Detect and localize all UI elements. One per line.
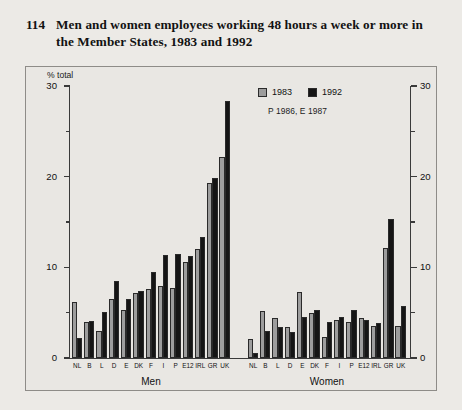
y-tick-label-right-10: 10 (420, 261, 442, 272)
bar-men-E-1992 (126, 299, 131, 358)
x-label-men-GR: GR (208, 362, 218, 369)
bar-group-women-E (297, 292, 307, 358)
bar-men-E12-1992 (188, 256, 193, 358)
bar-group-men-B (84, 321, 94, 358)
bars-layer (69, 86, 410, 358)
x-label-women-L: L (276, 362, 280, 369)
y-tick-right-20 (411, 176, 417, 177)
x-label-women-GR: GR (384, 362, 394, 369)
y-tick-label-left-30: 30 (35, 80, 57, 91)
bar-group-women-E12 (359, 318, 369, 358)
bar-women-I-1992 (339, 317, 344, 358)
bar-group-men-DK (133, 291, 143, 358)
bar-group-women-P (346, 310, 356, 358)
x-label-men-L: L (100, 362, 104, 369)
bar-women-UK-1992 (401, 306, 406, 358)
x-label-women-F: F (325, 362, 329, 369)
y-tick-left-10 (64, 267, 70, 268)
chart-page: 114 Men and women employees working 48 h… (0, 0, 462, 410)
y-minor-tick-right-25 (411, 131, 415, 132)
x-axis-labels: NLBLDEDKFIPE12IRLGRUKNLBLDEDKFIPE12IRLGR… (69, 362, 410, 376)
bar-women-E-1992 (302, 317, 307, 358)
bar-women-L-1992 (278, 327, 283, 358)
y-minor-tick-left-5 (66, 312, 70, 313)
y-tick-label-left-20: 20 (35, 171, 57, 182)
figure-number: 114 (26, 16, 45, 33)
bar-men-I-1992 (163, 255, 168, 358)
y-tick-label-left-10: 10 (35, 261, 57, 272)
x-label-men-UK: UK (220, 362, 229, 369)
bar-women-GR-1992 (388, 219, 393, 358)
y-tick-right-10 (411, 267, 417, 268)
x-axis-baseline (69, 358, 412, 359)
x-label-women-NL: NL (249, 362, 257, 369)
x-label-men-IRL: IRL (195, 362, 205, 369)
panel-label-men: Men (141, 376, 160, 387)
y-minor-tick-right-15 (411, 221, 415, 222)
bar-group-women-GR (383, 219, 393, 358)
bar-men-B-1992 (89, 321, 94, 358)
x-label-women-B: B (263, 362, 267, 369)
y-tick-left-0 (64, 357, 70, 358)
bar-group-men-GR (207, 178, 217, 358)
bar-men-UK-1992 (225, 101, 230, 358)
bar-group-men-E (121, 299, 131, 358)
bar-group-women-I (334, 317, 344, 358)
bar-group-women-D (285, 327, 295, 358)
y-tick-right-0 (411, 357, 417, 358)
y-tick-right-30 (411, 85, 417, 86)
y-tick-left-30 (64, 85, 70, 86)
bar-women-NL-1992 (253, 353, 258, 358)
bar-men-IRL-1992 (200, 237, 205, 358)
bar-group-men-UK (219, 101, 229, 358)
x-label-women-I: I (338, 362, 340, 369)
bar-men-D-1992 (114, 281, 119, 358)
y-minor-tick-left-25 (66, 131, 70, 132)
x-label-women-DK: DK (310, 362, 319, 369)
bar-group-women-NL (248, 339, 258, 358)
bar-group-women-IRL (371, 323, 381, 358)
bar-group-men-F (146, 272, 156, 358)
x-label-women-IRL: IRL (371, 362, 381, 369)
y-tick-label-right-30: 30 (420, 80, 442, 91)
bar-women-D-1992 (290, 332, 295, 358)
bar-group-men-D (109, 281, 119, 358)
x-label-women-D: D (288, 362, 293, 369)
x-label-women-P: P (349, 362, 353, 369)
bar-men-DK-1992 (138, 291, 143, 358)
bar-men-GR-1992 (212, 178, 217, 358)
bar-group-men-I (158, 255, 168, 358)
y-minor-tick-right-5 (411, 312, 415, 313)
bar-women-E12-1992 (364, 320, 369, 358)
y-tick-label-right-20: 20 (420, 171, 442, 182)
page-title: Men and women employees working 48 hours… (56, 16, 440, 51)
bar-group-women-UK (395, 306, 405, 358)
bar-group-men-L (96, 312, 106, 358)
y-minor-tick-left-15 (66, 221, 70, 222)
x-label-women-E12: E12 (358, 362, 370, 369)
bar-group-men-IRL (195, 237, 205, 358)
bar-group-men-E12 (183, 256, 193, 358)
bar-group-women-B (260, 311, 270, 358)
bar-men-F-1992 (151, 272, 156, 358)
x-label-women-UK: UK (396, 362, 405, 369)
x-label-men-D: D (112, 362, 117, 369)
y-axis-unit-label: % total (47, 70, 73, 80)
panel-label-women: Women (310, 376, 344, 387)
bar-men-L-1992 (102, 312, 107, 358)
bar-women-F-1992 (327, 322, 332, 358)
x-label-men-E12: E12 (182, 362, 194, 369)
bar-women-IRL-1992 (376, 323, 381, 358)
bar-women-DK-1992 (314, 310, 319, 358)
x-label-men-P: P (173, 362, 177, 369)
x-label-men-I: I (162, 362, 164, 369)
bar-men-P-1992 (175, 254, 180, 358)
y-tick-left-20 (64, 176, 70, 177)
bar-women-B-1992 (265, 331, 270, 358)
bar-group-women-F (322, 322, 332, 358)
x-label-men-DK: DK (134, 362, 143, 369)
y-tick-label-right-0: 0 (420, 352, 442, 363)
bar-men-NL-1992 (77, 338, 82, 358)
chart-title-block: 114 Men and women employees working 48 h… (26, 16, 440, 51)
bar-women-P-1992 (351, 310, 356, 358)
